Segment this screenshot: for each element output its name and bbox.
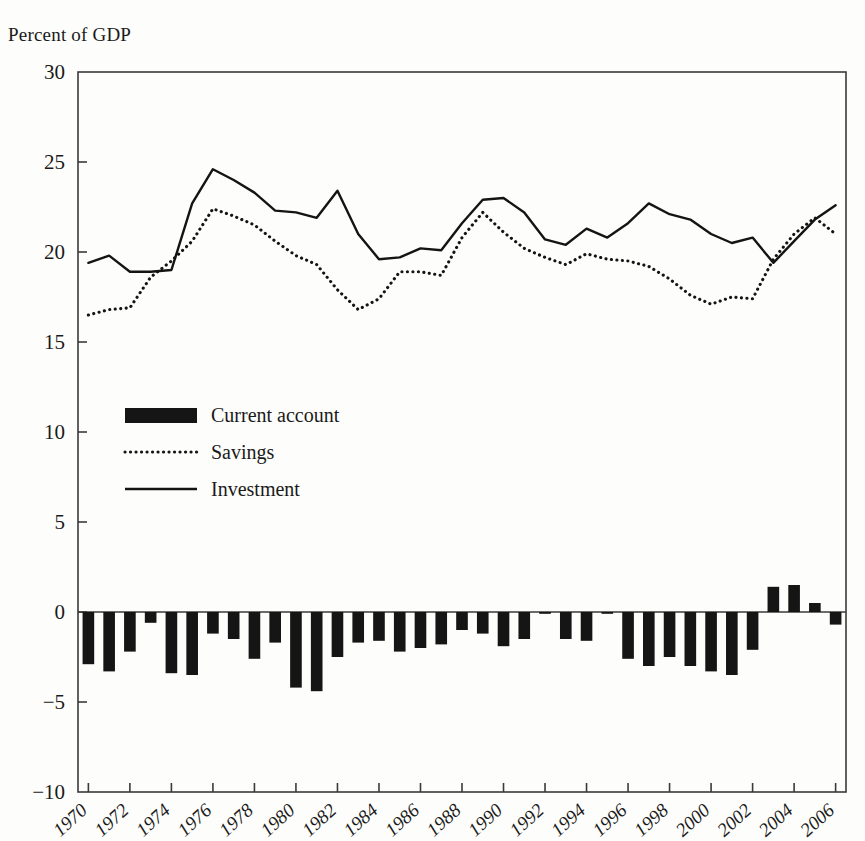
legend-label: Savings bbox=[211, 441, 275, 464]
x-tick-label: 1994 bbox=[547, 799, 590, 840]
bar-current-account bbox=[269, 612, 281, 643]
x-tick-label: 1988 bbox=[422, 799, 465, 840]
bar-current-account bbox=[332, 612, 344, 657]
x-axis-ticks bbox=[88, 783, 835, 792]
investment-line bbox=[88, 169, 835, 272]
bar-current-account bbox=[664, 612, 676, 657]
y-tick-label: 20 bbox=[44, 240, 65, 264]
legend-label: Current account bbox=[211, 404, 340, 426]
plot-frame bbox=[78, 72, 846, 792]
x-tick-label: 2004 bbox=[754, 799, 797, 840]
bar-current-account bbox=[145, 612, 157, 623]
x-tick-label: 1972 bbox=[90, 799, 133, 840]
bar-current-account bbox=[415, 612, 427, 648]
chart-canvas: 302520151050−5−10 1970197219741976197819… bbox=[0, 0, 865, 841]
economics-line-bar-chart: 302520151050−5−10 1970197219741976197819… bbox=[0, 0, 865, 841]
y-axis-tick-labels: 302520151050−5−10 bbox=[32, 60, 65, 804]
legend-item: Savings bbox=[125, 441, 275, 464]
bar-current-account bbox=[435, 612, 447, 644]
current-account-bars bbox=[83, 585, 842, 691]
bar-current-account bbox=[518, 612, 530, 639]
x-axis-tick-labels: 1970197219741976197819801982198419861988… bbox=[49, 799, 839, 840]
bar-current-account bbox=[705, 612, 717, 671]
bar-current-account bbox=[373, 612, 385, 641]
y-tick-label: −5 bbox=[43, 690, 65, 714]
x-tick-label: 1986 bbox=[381, 799, 424, 840]
bar-current-account bbox=[166, 612, 178, 673]
bar-current-account bbox=[622, 612, 634, 659]
x-tick-label: 1982 bbox=[298, 799, 341, 840]
y-tick-label: 10 bbox=[44, 420, 65, 444]
y-tick-label: 25 bbox=[44, 150, 65, 174]
bar-current-account bbox=[83, 612, 95, 664]
bar-current-account bbox=[768, 587, 780, 612]
legend-item: Current account bbox=[125, 404, 340, 426]
bar-current-account bbox=[560, 612, 572, 639]
bar-current-account bbox=[747, 612, 759, 650]
x-tick-label: 1976 bbox=[173, 799, 216, 840]
x-tick-label: 1970 bbox=[49, 799, 92, 840]
bar-current-account bbox=[228, 612, 240, 639]
bar-current-account bbox=[249, 612, 261, 659]
legend-item: Investment bbox=[125, 478, 300, 500]
x-tick-label: 1984 bbox=[339, 799, 382, 840]
x-tick-label: 1978 bbox=[215, 799, 258, 840]
y-tick-label: 5 bbox=[55, 510, 66, 534]
bar-current-account bbox=[830, 612, 842, 625]
bar-current-account bbox=[456, 612, 468, 630]
chart-legend: Current accountSavingsInvestment bbox=[125, 404, 340, 500]
bar-current-account bbox=[207, 612, 219, 634]
legend-swatch-current-account bbox=[125, 408, 197, 423]
bar-current-account bbox=[788, 585, 800, 612]
bar-current-account bbox=[685, 612, 697, 666]
x-tick-label: 1974 bbox=[132, 799, 175, 840]
chart-page: Percent of GDP 302520151050−5−10 1970197… bbox=[0, 0, 865, 841]
bar-current-account bbox=[726, 612, 738, 675]
bar-current-account bbox=[103, 612, 115, 671]
x-tick-label: 2000 bbox=[671, 799, 714, 840]
x-tick-label: 1990 bbox=[464, 799, 507, 840]
x-tick-label: 1998 bbox=[630, 799, 673, 840]
bar-current-account bbox=[809, 603, 821, 612]
y-tick-label: 30 bbox=[44, 60, 65, 84]
y-tick-label: 15 bbox=[44, 330, 65, 354]
y-tick-label: −10 bbox=[32, 780, 65, 804]
bar-current-account bbox=[394, 612, 406, 652]
x-tick-label: 1996 bbox=[588, 799, 631, 840]
legend-label: Investment bbox=[211, 478, 300, 500]
x-tick-label: 1980 bbox=[256, 799, 299, 840]
bar-current-account bbox=[477, 612, 489, 634]
bar-current-account bbox=[124, 612, 136, 652]
bar-current-account bbox=[643, 612, 655, 666]
bar-current-account bbox=[290, 612, 302, 688]
bar-current-account bbox=[186, 612, 198, 675]
bar-current-account bbox=[601, 612, 613, 614]
bar-current-account bbox=[581, 612, 593, 641]
bar-current-account bbox=[539, 612, 551, 614]
x-tick-label: 2002 bbox=[713, 799, 756, 840]
bar-current-account bbox=[311, 612, 323, 691]
x-tick-label: 1992 bbox=[505, 799, 548, 840]
bar-current-account bbox=[498, 612, 510, 646]
bar-current-account bbox=[352, 612, 364, 643]
y-tick-label: 0 bbox=[55, 600, 66, 624]
x-tick-label: 2006 bbox=[796, 799, 839, 840]
